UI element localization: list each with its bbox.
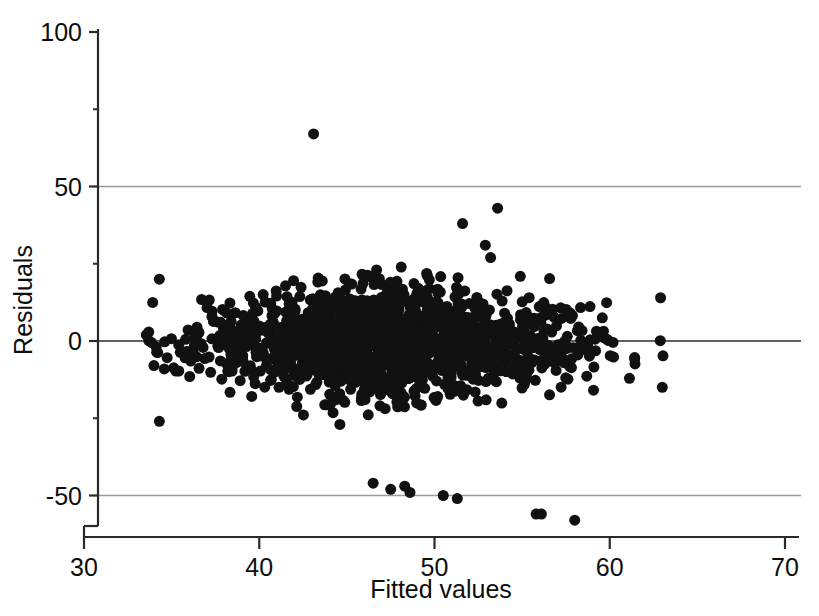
data-point: [657, 350, 668, 361]
data-point: [352, 317, 363, 328]
data-point: [396, 328, 407, 339]
data-point: [523, 365, 534, 376]
y-axis-tick-label: 0: [68, 327, 82, 355]
data-point: [431, 375, 442, 386]
data-point: [248, 371, 259, 382]
data-point: [363, 409, 374, 420]
data-point: [535, 317, 546, 328]
data-point: [258, 347, 269, 358]
data-point: [343, 371, 354, 382]
data-point: [362, 354, 373, 365]
data-point: [259, 325, 270, 336]
data-point: [296, 282, 307, 293]
data-point: [435, 271, 446, 282]
data-point: [356, 389, 367, 400]
data-point: [432, 312, 443, 323]
data-point: [273, 322, 284, 333]
data-point: [588, 385, 599, 396]
data-point: [544, 273, 555, 284]
data-point: [194, 363, 205, 374]
data-point: [397, 317, 408, 328]
data-point: [159, 363, 170, 374]
outlier-point: [438, 490, 449, 501]
data-point: [148, 360, 159, 371]
data-point: [441, 315, 452, 326]
data-point: [395, 374, 406, 385]
data-point: [597, 312, 608, 323]
data-point: [270, 334, 281, 345]
data-point: [235, 375, 246, 386]
x-axis-tick-label: 60: [596, 553, 624, 581]
data-point: [521, 331, 532, 342]
y-axis-tick-label: -50: [46, 482, 82, 510]
data-point: [551, 365, 562, 376]
outlier-point: [154, 416, 165, 427]
data-point: [581, 371, 592, 382]
data-point: [491, 376, 502, 387]
data-points-layer: [141, 128, 669, 525]
data-point: [556, 313, 567, 324]
data-point: [533, 337, 544, 348]
data-point: [271, 285, 282, 296]
outlier-point: [536, 509, 547, 520]
x-axis-tick-label: 30: [70, 553, 98, 581]
data-point: [484, 321, 495, 332]
data-point: [359, 303, 370, 314]
data-point: [335, 298, 346, 309]
data-point: [382, 333, 393, 344]
data-point: [305, 384, 316, 395]
data-point: [346, 279, 357, 290]
outlier-point: [569, 515, 580, 526]
data-point: [212, 335, 223, 346]
data-point: [495, 319, 506, 330]
data-point: [535, 355, 546, 366]
data-point: [329, 359, 340, 370]
data-point: [246, 321, 257, 332]
data-point: [380, 403, 391, 414]
data-point: [577, 325, 588, 336]
data-point: [302, 368, 313, 379]
data-point: [151, 347, 162, 358]
data-point: [349, 357, 360, 368]
data-point: [271, 305, 282, 316]
outlier-point: [485, 252, 496, 263]
data-point: [336, 318, 347, 329]
data-point: [305, 335, 316, 346]
data-point: [385, 277, 396, 288]
data-point: [367, 370, 378, 381]
data-point: [424, 274, 435, 285]
data-point: [333, 287, 344, 298]
data-point: [472, 342, 483, 353]
outlier-point: [308, 128, 319, 139]
data-point: [303, 316, 314, 327]
data-point: [215, 317, 226, 328]
data-point: [415, 373, 426, 384]
x-axis-tick-label: 70: [771, 553, 799, 581]
data-point: [418, 297, 429, 308]
y-axis-tick-label: 100: [40, 18, 82, 46]
data-point: [319, 326, 330, 337]
data-point: [408, 278, 419, 289]
data-point: [379, 385, 390, 396]
y-axis-ticks: -50050100: [40, 18, 98, 510]
data-point: [226, 316, 237, 327]
data-point: [180, 352, 191, 363]
data-point: [453, 272, 464, 283]
data-point: [590, 345, 601, 356]
data-point: [608, 352, 619, 363]
outlier-point: [154, 274, 165, 285]
data-point: [292, 392, 303, 403]
data-point: [584, 301, 595, 312]
data-point: [320, 340, 331, 351]
data-point: [432, 391, 443, 402]
data-point: [575, 302, 586, 313]
y-axis-tick-label: 50: [54, 173, 82, 201]
data-point: [216, 374, 227, 385]
data-point: [434, 347, 445, 358]
data-point: [330, 394, 341, 405]
data-point: [629, 352, 640, 363]
data-point: [312, 277, 323, 288]
data-point: [624, 373, 635, 384]
data-point: [455, 303, 466, 314]
data-point: [655, 335, 666, 346]
